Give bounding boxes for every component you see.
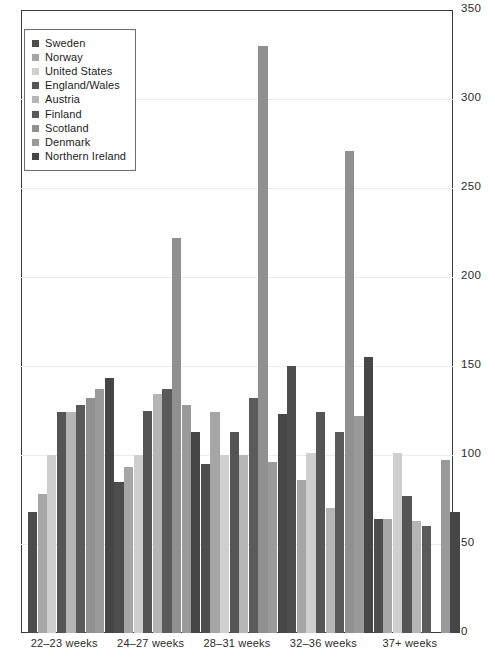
bar <box>450 512 459 633</box>
bar <box>402 496 411 633</box>
bar <box>182 405 191 633</box>
y-axis-tick-label: 0 <box>461 625 493 637</box>
legend-item: Finland <box>32 107 126 121</box>
bar <box>47 455 56 633</box>
bar <box>287 366 296 633</box>
bar-group <box>201 10 287 633</box>
legend-swatch-icon <box>32 153 39 160</box>
bar <box>297 480 306 633</box>
bar <box>316 412 325 633</box>
legend-item: Northern Ireland <box>32 150 126 164</box>
chart-legend: SwedenNorwayUnited StatesEngland/WalesAu… <box>24 29 136 171</box>
bar <box>105 378 114 633</box>
bar <box>383 519 392 633</box>
legend-item: Denmark <box>32 135 126 149</box>
bar <box>441 460 450 633</box>
bar <box>422 526 431 633</box>
x-axis-tick-label: 24–27 weeks <box>107 637 193 649</box>
bar <box>76 405 85 633</box>
legend-swatch-icon <box>32 96 39 103</box>
legend-item-label: Austria <box>45 94 80 105</box>
bar <box>335 432 344 633</box>
y-axis-tick-label: 250 <box>461 180 493 192</box>
bar <box>134 455 143 633</box>
bar <box>239 455 248 633</box>
bar <box>374 519 383 633</box>
bar <box>66 412 75 633</box>
legend-item-label: Northern Ireland <box>45 151 126 162</box>
y-axis-tick-label: 50 <box>461 536 493 548</box>
bar <box>412 521 421 633</box>
legend-item-label: Sweden <box>45 38 85 49</box>
bar <box>201 464 210 633</box>
y-axis-tick-label: 350 <box>461 2 493 14</box>
bar-chart: 050100150200250300350 22–23 weeks24–27 w… <box>0 0 495 658</box>
x-axis-tick-label: 22–23 weeks <box>21 637 107 649</box>
y-axis-tick-label: 100 <box>461 447 493 459</box>
legend-item-label: United States <box>45 66 112 77</box>
legend-swatch-icon <box>32 40 39 47</box>
legend-swatch-icon <box>32 139 39 146</box>
legend-item: United States <box>32 64 126 78</box>
bar <box>230 432 239 633</box>
legend-swatch-icon <box>32 68 39 75</box>
legend-item-label: England/Wales <box>45 80 120 91</box>
bar <box>249 398 258 633</box>
y-axis-tick-label: 150 <box>461 358 493 370</box>
bar <box>220 455 229 633</box>
x-axis-tick-label: 28–31 weeks <box>194 637 280 649</box>
bar <box>95 389 104 633</box>
bar <box>124 467 133 633</box>
legend-item: Sweden <box>32 36 126 50</box>
bar-group <box>374 10 460 633</box>
bar <box>345 151 354 633</box>
bar <box>114 482 123 633</box>
bar <box>172 238 181 633</box>
bar <box>354 416 363 633</box>
bar <box>38 494 47 633</box>
x-axis-tick-label: 37+ weeks <box>367 637 453 649</box>
legend-swatch-icon <box>32 111 39 118</box>
bar <box>306 453 315 633</box>
bar <box>57 412 66 633</box>
legend-item: Scotland <box>32 121 126 135</box>
legend-item: Austria <box>32 93 126 107</box>
bar <box>28 512 37 633</box>
y-axis-tick-label: 300 <box>461 91 493 103</box>
bar <box>278 414 287 633</box>
legend-item-label: Finland <box>45 109 82 120</box>
legend-item-label: Denmark <box>45 137 90 148</box>
bar <box>143 411 152 634</box>
bar <box>86 398 95 633</box>
bar <box>364 357 373 633</box>
bar <box>153 394 162 633</box>
bar <box>326 508 335 633</box>
legend-item: Norway <box>32 50 126 64</box>
bar <box>258 46 267 633</box>
legend-swatch-icon <box>32 54 39 61</box>
legend-swatch-icon <box>32 125 39 132</box>
legend-swatch-icon <box>32 82 39 89</box>
legend-item-label: Norway <box>45 52 83 63</box>
legend-item: England/Wales <box>32 79 126 93</box>
bar <box>162 389 171 633</box>
bar <box>268 462 277 633</box>
bar <box>191 432 200 633</box>
bar <box>210 412 219 633</box>
y-axis-tick-label: 200 <box>461 269 493 281</box>
legend-item-label: Scotland <box>45 123 89 134</box>
bar <box>393 453 402 633</box>
bar-group <box>287 10 373 633</box>
x-axis-tick-label: 32–36 weeks <box>280 637 366 649</box>
